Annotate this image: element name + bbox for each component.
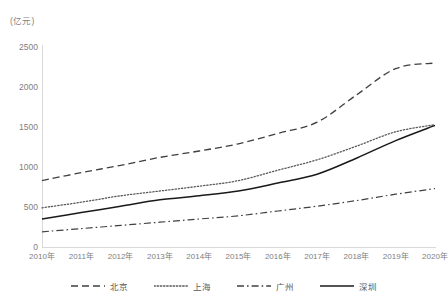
legend-item-北京[interactable]: 北京	[71, 280, 128, 292]
legend-swatch-dashed-icon	[71, 282, 105, 290]
series-line-上海	[42, 125, 435, 208]
x-axis-tick: 2020年	[422, 250, 448, 261]
legend-item-广州[interactable]: 广州	[237, 280, 294, 292]
series-line-北京	[42, 63, 435, 181]
x-axis-tick: 2019年	[383, 250, 409, 261]
series-line-广州	[42, 189, 435, 232]
legend-item-深圳[interactable]: 深圳	[320, 280, 377, 292]
legend-label: 北京	[110, 280, 128, 292]
x-axis-tick: 2016年	[265, 250, 291, 261]
series-line-深圳	[42, 125, 435, 219]
x-axis-tick: 2014年	[186, 250, 212, 261]
legend-label: 上海	[193, 280, 211, 292]
legend-swatch-dotted-icon	[154, 282, 188, 290]
chart-legend: 北京上海广州深圳	[0, 276, 447, 296]
legend-swatch-solid-icon	[320, 282, 354, 290]
x-axis-tick: 2018年	[343, 250, 369, 261]
x-axis-tick: 2017年	[304, 250, 330, 261]
x-axis-tick: 2010年	[29, 250, 55, 261]
x-axis-tick-labels: 2010年2011年2012年2013年2014年2015年2016年2017年…	[42, 250, 435, 266]
x-axis-tick: 2015年	[226, 250, 252, 261]
x-axis-tick: 2012年	[108, 250, 134, 261]
legend-swatch-dash-dot-icon	[237, 282, 271, 290]
legend-label: 深圳	[359, 280, 377, 292]
x-axis-tick: 2011年	[69, 250, 94, 261]
x-axis-tick: 2013年	[147, 250, 173, 261]
legend-item-上海[interactable]: 上海	[154, 280, 211, 292]
legend-label: 广州	[276, 280, 294, 292]
